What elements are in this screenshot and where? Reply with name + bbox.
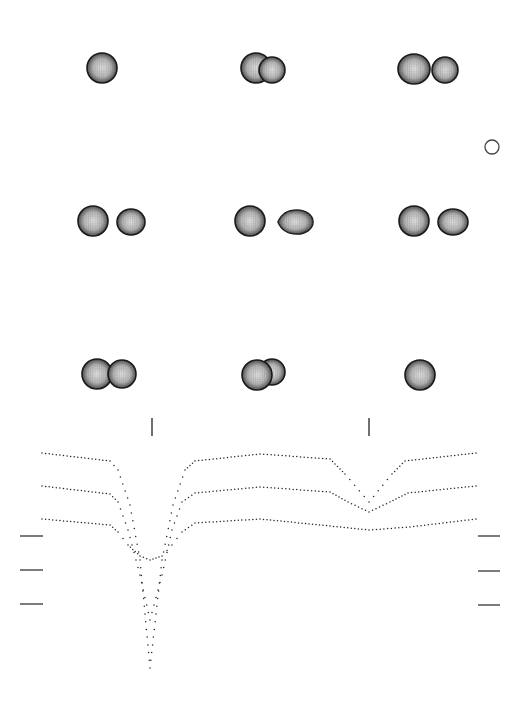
star-icon	[432, 57, 458, 83]
star-icon	[235, 206, 265, 236]
star-icon	[438, 209, 468, 235]
star-icon	[87, 53, 117, 83]
star-icon	[278, 210, 313, 234]
phase-panel	[82, 359, 136, 389]
star-icon	[108, 360, 136, 388]
phase-panel	[405, 360, 435, 390]
phase-panel	[242, 359, 285, 390]
star-icon	[78, 206, 108, 236]
light-curves	[41, 452, 477, 669]
star-icon	[399, 206, 429, 236]
phase-panel	[241, 53, 285, 83]
phase-panel	[398, 54, 458, 84]
phase-panel	[399, 206, 468, 236]
star-icon	[405, 360, 435, 390]
star-icon	[117, 209, 145, 235]
star-icon	[242, 360, 272, 390]
light-curve-series	[41, 452, 477, 669]
light-curve-series	[41, 518, 477, 561]
orbital-phase-panels	[78, 53, 468, 390]
level-ticks	[20, 536, 500, 605]
phase-panel	[78, 206, 145, 236]
star-icon	[398, 54, 430, 84]
phase-panel	[235, 206, 313, 236]
light-curve-series	[41, 485, 477, 621]
star-icon	[259, 57, 285, 83]
eclipse-markers	[152, 418, 369, 436]
open-circle-icon	[485, 140, 499, 154]
binary-star-figure	[0, 0, 525, 707]
scale-marker-circle-icon	[485, 140, 499, 154]
phase-panel	[87, 53, 117, 83]
